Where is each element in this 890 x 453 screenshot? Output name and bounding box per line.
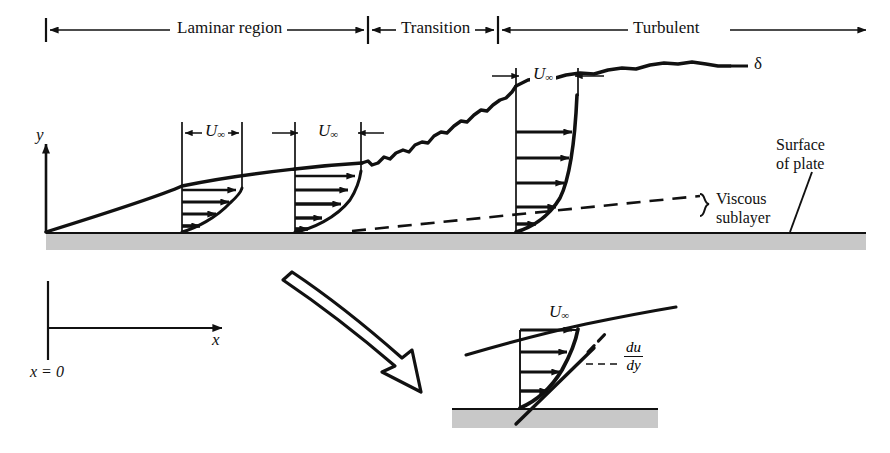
- free-stream-symbol: U: [533, 64, 545, 83]
- free-stream-subscript: ∞: [217, 128, 224, 140]
- velocity-gradient-label: du dy: [624, 339, 643, 374]
- surface-of-plate-line-1: Surface: [776, 136, 825, 155]
- surface-of-plate-label: Surface of plate: [776, 136, 825, 174]
- gradient-numerator: du: [624, 339, 643, 357]
- viscous-sublayer-label: Viscous sublayer: [716, 190, 770, 228]
- x-axis-label: x: [212, 331, 220, 349]
- boundary-layer-edge: [46, 62, 730, 232]
- free-stream-label-inset: U∞: [546, 303, 572, 322]
- flat-plate-main: [46, 233, 866, 250]
- x-axis: [48, 281, 222, 360]
- free-stream-label-turbulent: U∞: [530, 65, 556, 84]
- free-stream-symbol: U: [318, 121, 330, 140]
- free-stream-symbol: U: [549, 302, 561, 321]
- viscous-sublayer-line-2: sublayer: [716, 209, 770, 228]
- gradient-denominator: dy: [624, 357, 643, 374]
- viscous-sublayer-line-1: Viscous: [716, 190, 770, 209]
- free-stream-label-laminar-1: U∞: [202, 122, 228, 141]
- free-stream-symbol: U: [205, 121, 217, 140]
- surface-of-plate-leader: [790, 172, 812, 232]
- region-label-turbulent: Turbulent: [628, 19, 704, 37]
- magnifier-callout-arrow: [283, 272, 421, 392]
- delta-label: δ: [754, 55, 762, 73]
- free-stream-label-laminar-2: U∞: [315, 122, 341, 141]
- viscous-sublayer-line: [352, 196, 700, 231]
- boundary-layer-figure: Laminar region Transition Turbulent U∞ U…: [0, 0, 890, 453]
- free-stream-subscript: ∞: [330, 128, 337, 140]
- free-stream-subscript: ∞: [561, 309, 568, 321]
- region-label-laminar: Laminar region: [172, 19, 287, 37]
- origin-label: x = 0: [30, 364, 64, 381]
- surface-of-plate-line-2: of plate: [776, 155, 825, 174]
- region-label-transition: Transition: [396, 19, 475, 37]
- free-stream-subscript: ∞: [545, 71, 552, 83]
- y-axis-label: y: [36, 126, 44, 144]
- viscous-sublayer-brace: [700, 194, 709, 216]
